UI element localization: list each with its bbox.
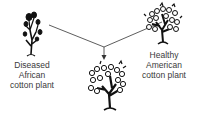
healthy-plant-icon bbox=[144, 3, 182, 44]
label-line: cotton plant bbox=[6, 80, 58, 90]
healthy-american-cotton-label: Healthy American cotton plant bbox=[136, 50, 192, 80]
label-line: American bbox=[136, 60, 192, 70]
label-line: African bbox=[6, 70, 58, 80]
label-line: cotton plant bbox=[136, 70, 192, 80]
label-line: Diseased bbox=[6, 60, 58, 70]
label-line: Healthy bbox=[136, 50, 192, 60]
arrowhead-icon bbox=[102, 55, 107, 60]
diseased-african-cotton-label: Diseased African cotton plant bbox=[6, 60, 58, 90]
result-plant-icon bbox=[88, 61, 126, 110]
diseased-plant-icon bbox=[23, 12, 42, 56]
